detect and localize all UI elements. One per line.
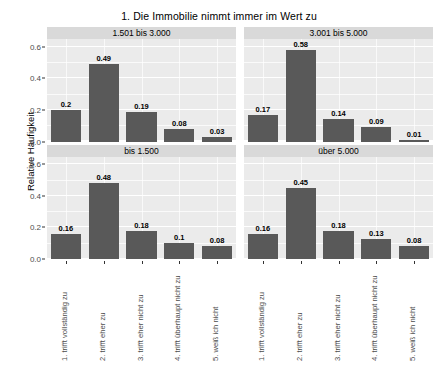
bar-slot: 0.18 — [126, 157, 156, 260]
x-axis-tick-label: 5. weiß ich nicht — [408, 307, 417, 361]
bar-value-label: 0.14 — [331, 109, 346, 118]
bar[interactable]: 0.03 — [202, 137, 232, 142]
bar[interactable]: 0.01 — [399, 140, 429, 142]
y-axis-tick-mark — [42, 259, 45, 260]
x-axis-tick-label: 4. trifft überhaupt nicht zu — [370, 275, 379, 361]
bar-value-label: 0.08 — [210, 236, 225, 245]
y-axis-ticks-row-bottom: 0.00.20.40.6 — [0, 157, 46, 260]
y-axis-tick-mark — [42, 46, 45, 47]
bar[interactable]: 0.49 — [89, 64, 119, 141]
bar-value-label: 0.09 — [369, 117, 384, 126]
bar-series: 0.20.490.190.080.03 — [47, 39, 236, 142]
bar-series: 0.160.480.180.10.08 — [47, 157, 236, 260]
bar[interactable]: 0.45 — [286, 188, 316, 259]
bar-slot: 0.16 — [51, 157, 81, 260]
plot-panel: 0.160.480.180.10.08 — [47, 157, 236, 260]
x-axis-tick-mark — [301, 261, 302, 264]
bar[interactable]: 0.18 — [126, 231, 156, 259]
y-axis-tick-label: 0.0 — [30, 137, 41, 146]
bar-slot: 0.08 — [202, 157, 232, 260]
bar-value-label: 0.08 — [407, 236, 422, 245]
y-axis-tick-label: 0.4 — [30, 74, 41, 83]
bar[interactable]: 0.1 — [164, 243, 194, 259]
bar-value-label: 0.01 — [407, 130, 422, 139]
facet-strip-label: über 5.000 — [244, 145, 433, 157]
bar-slot: 0.18 — [323, 157, 353, 260]
facet-grid: 1.501 bis 3.0000.20.490.190.080.033.001 … — [47, 27, 433, 259]
x-axis-tick-mark — [142, 261, 143, 264]
bar[interactable]: 0.09 — [361, 127, 391, 141]
bar[interactable]: 0.58 — [286, 50, 316, 141]
bar-value-label: 0.1 — [174, 233, 184, 242]
bar[interactable]: 0.16 — [51, 234, 81, 259]
y-axis-tick-mark — [42, 141, 45, 142]
bar[interactable]: 0.18 — [323, 231, 353, 259]
bar-value-label: 0.48 — [96, 173, 111, 182]
bar[interactable]: 0.08 — [164, 129, 194, 142]
bar-slot: 0.49 — [89, 39, 119, 142]
bar-value-label: 0.45 — [293, 178, 308, 187]
bar-value-label: 0.17 — [256, 105, 271, 114]
facet-panel: 1.501 bis 3.0000.20.490.190.080.03 — [47, 27, 236, 142]
bar-slot: 0.01 — [399, 39, 429, 142]
x-axis-tick-mark — [66, 261, 67, 264]
bar[interactable]: 0.16 — [248, 234, 278, 259]
plot-panel: 0.160.450.180.130.08 — [244, 157, 433, 260]
bar[interactable]: 0.14 — [323, 119, 353, 141]
x-axis-tick-label: 4. trifft überhaupt nicht zu — [173, 275, 182, 361]
bar-value-label: 0.19 — [134, 102, 149, 111]
facet-panel: 3.001 bis 5.0000.170.580.140.090.01 — [244, 27, 433, 142]
bar-slot: 0.08 — [164, 39, 194, 142]
bar-slot: 0.14 — [323, 39, 353, 142]
bar-slot: 0.16 — [248, 157, 278, 260]
y-axis-tick-mark — [42, 109, 45, 110]
y-axis-tick-mark — [42, 195, 45, 196]
bar-value-label: 0.16 — [256, 224, 271, 233]
facet-panel: über 5.0000.160.450.180.130.08 — [244, 145, 433, 260]
bar[interactable]: 0.08 — [399, 246, 429, 259]
x-axis-tick-label: 2. trifft eher zu — [295, 313, 304, 361]
y-axis-tick-label: 0.4 — [30, 191, 41, 200]
chart-title: 1. Die Immobilie nimmt immer im Wert zu — [0, 10, 438, 22]
bar-slot: 0.17 — [248, 39, 278, 142]
facet-strip-label: 3.001 bis 5.000 — [244, 27, 433, 39]
bar-slot: 0.13 — [361, 157, 391, 260]
bar[interactable]: 0.13 — [361, 239, 391, 260]
bar-series: 0.170.580.140.090.01 — [244, 39, 433, 142]
bar-value-label: 0.2 — [61, 100, 71, 109]
bar-slot: 0.2 — [51, 39, 81, 142]
bar[interactable]: 0.48 — [89, 183, 119, 259]
facet-strip-label: 1.501 bis 3.000 — [47, 27, 236, 39]
facet-panel: bis 1.5000.160.480.180.10.08 — [47, 145, 236, 260]
y-axis-tick-label: 0.2 — [30, 223, 41, 232]
bar-value-label: 0.08 — [172, 119, 187, 128]
bar[interactable]: 0.2 — [51, 110, 81, 142]
bar-series: 0.160.450.180.130.08 — [244, 157, 433, 260]
x-axis-tick-mark — [217, 261, 218, 264]
bar-slot: 0.08 — [399, 157, 429, 260]
bar-value-label: 0.58 — [293, 40, 308, 49]
bar[interactable]: 0.19 — [126, 112, 156, 142]
bar-slot: 0.48 — [89, 157, 119, 260]
x-axis-ticks-left: 1. trifft vollständig zu2. trifft eher z… — [47, 261, 236, 361]
bar-slot: 0.58 — [286, 39, 316, 142]
y-axis-tick-mark — [42, 164, 45, 165]
x-axis-tick-label: 3. trifft eher nicht zu — [136, 294, 145, 361]
plot-panel: 0.20.490.190.080.03 — [47, 39, 236, 142]
facet-strip-label: bis 1.500 — [47, 145, 236, 157]
bar[interactable]: 0.17 — [248, 115, 278, 142]
y-axis-tick-label: 0.6 — [30, 160, 41, 169]
x-axis-tick-label: 2. trifft eher zu — [98, 313, 107, 361]
bar[interactable]: 0.08 — [202, 246, 232, 259]
x-axis-ticks-right: 1. trifft vollständig zu2. trifft eher z… — [244, 261, 433, 361]
bar-slot: 0.19 — [126, 39, 156, 142]
x-axis-tick-label: 5. weiß ich nicht — [211, 307, 220, 361]
bar-slot: 0.1 — [164, 157, 194, 260]
chart-root: 1. Die Immobilie nimmt immer im Wert zu … — [0, 0, 438, 370]
y-axis-tick-label: 0.0 — [30, 255, 41, 264]
x-axis-tick-mark — [376, 261, 377, 264]
x-axis-tick-label: 3. trifft eher nicht zu — [333, 294, 342, 361]
bar-value-label: 0.49 — [96, 54, 111, 63]
y-axis-tick-mark — [42, 78, 45, 79]
x-axis-tick-mark — [263, 261, 264, 264]
